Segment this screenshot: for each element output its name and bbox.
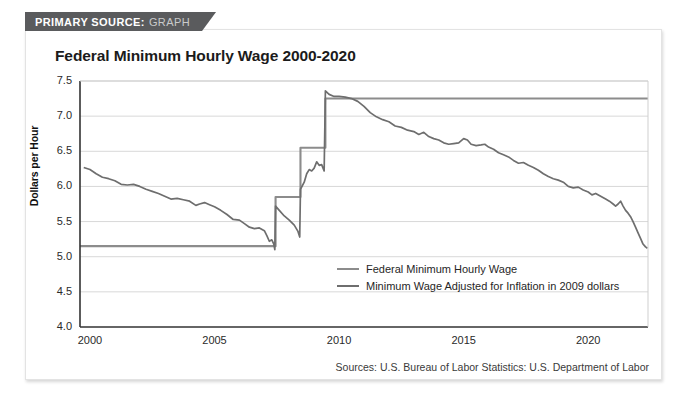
legend-item-adjusted: Minimum Wage Adjusted for Inflation in 2… [337, 277, 619, 294]
x-tick-label: 2010 [309, 334, 369, 346]
page-root: PRIMARY SOURCE: GRAPH Federal Minimum Ho… [0, 0, 687, 409]
y-tick-label: 6.5 [38, 144, 72, 156]
banner-label: PRIMARY SOURCE: [35, 16, 145, 28]
x-tick-label: 2020 [558, 334, 618, 346]
chart-title: Federal Minimum Hourly Wage 2000-2020 [55, 47, 356, 65]
x-tick-label: 2000 [60, 334, 120, 346]
legend-label-adjusted: Minimum Wage Adjusted for Inflation in 2… [366, 280, 619, 292]
y-tick-label: 7.5 [38, 74, 72, 86]
y-tick-label: 4.0 [38, 320, 72, 332]
chart-legend: Federal Minimum Hourly Wage Minimum Wage… [337, 260, 619, 294]
y-axis-label: Dollars per Hour [28, 106, 40, 226]
y-tick-label: 5.5 [38, 215, 72, 227]
legend-swatch-nominal [337, 268, 359, 270]
legend-item-nominal: Federal Minimum Hourly Wage [337, 260, 619, 277]
banner-value: GRAPH [149, 16, 190, 28]
y-tick-label: 4.5 [38, 285, 72, 297]
x-tick-label: 2015 [434, 334, 494, 346]
x-tick-label: 2005 [185, 334, 245, 346]
legend-label-nominal: Federal Minimum Hourly Wage [366, 263, 517, 275]
y-tick-label: 5.0 [38, 250, 72, 262]
source-note: Sources: U.S. Bureau of Labor Statistics… [336, 361, 649, 373]
y-tick-label: 7.0 [38, 109, 72, 121]
legend-swatch-adjusted [337, 285, 359, 287]
y-tick-label: 6.0 [38, 179, 72, 191]
graph-card [25, 29, 662, 380]
primary-source-banner: PRIMARY SOURCE: GRAPH [25, 12, 216, 31]
